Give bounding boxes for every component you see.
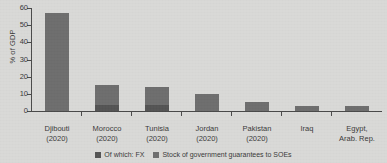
legend-label: Of which: FX: [104, 151, 144, 158]
x-label-year: (2020): [182, 134, 232, 144]
x-label-name: Djibouti: [32, 124, 82, 134]
x-label-name: Egypt,: [332, 124, 382, 134]
y-tick-30: 30: [31, 60, 36, 61]
legend-item-fx: Of which: FX: [95, 151, 144, 158]
x-tick: [131, 112, 132, 116]
x-label-year: (2020): [82, 134, 132, 144]
x-axis-line: [31, 111, 382, 112]
x-tick: [331, 112, 332, 116]
y-tick-label: 30: [20, 55, 28, 64]
bar-segment-stock: [195, 94, 219, 111]
bar-tunisia: [145, 8, 169, 111]
bar-segment-fx: [95, 105, 119, 111]
x-tick: [181, 112, 182, 116]
bar-segment-fx: [145, 105, 169, 111]
bar-egypt: [345, 8, 369, 111]
bar-pakistan: [245, 8, 269, 111]
x-label-name: Tunisia: [132, 124, 182, 134]
y-tick-20: 20: [31, 77, 36, 78]
bar-djibouti: [45, 8, 69, 111]
x-label-year: (2020): [132, 134, 182, 144]
x-label-year: (2020): [232, 134, 282, 144]
y-tick-label: 20: [20, 72, 28, 81]
legend-label: Stock of government guarantees to SOEs: [162, 151, 291, 158]
plot-area: 60 50 40 30 20 10 0: [31, 8, 382, 112]
x-label-name: Jordan: [182, 124, 232, 134]
y-tick-label: 10: [20, 89, 28, 98]
x-label-morocco: Morocco (2020): [82, 124, 132, 143]
x-label-name: Morocco: [82, 124, 132, 134]
y-tick-label: 60: [20, 3, 28, 12]
y-tick-10: 10: [31, 94, 36, 95]
x-label-name: Pakistan: [232, 124, 282, 134]
y-tick-label: 40: [20, 37, 28, 46]
x-tick: [231, 112, 232, 116]
legend-swatch-icon: [153, 152, 159, 158]
x-label-pakistan: Pakistan (2020): [232, 124, 282, 143]
y-tick-40: 40: [31, 42, 36, 43]
bar-segment-stock: [295, 106, 319, 111]
x-label-jordan: Jordan (2020): [182, 124, 232, 143]
bar-segment-stock: [45, 13, 69, 111]
bar-segment-stock: [345, 106, 369, 111]
x-label-egypt: Egypt, Arab. Rep.: [332, 124, 382, 143]
bar-segment-stock: [245, 102, 269, 111]
y-tick-label: 50: [20, 20, 28, 29]
chart-legend: Of which: FX Stock of government guarant…: [0, 151, 387, 158]
x-label-year: Arab. Rep.: [332, 134, 382, 144]
chart-figure: % of GDP 60 50 40 30 20 10: [0, 0, 387, 163]
y-tick-0: 0: [31, 111, 36, 112]
x-label-iraq: Iraq: [282, 124, 332, 134]
y-axis-title: % of GDP: [8, 17, 17, 77]
y-tick-60: 60: [31, 8, 36, 9]
y-tick-50: 50: [31, 25, 36, 26]
x-tick: [81, 112, 82, 116]
y-tick-label: 0: [24, 106, 28, 115]
x-label-djibouti: Djibouti (2020): [32, 124, 82, 143]
bar-iraq: [295, 8, 319, 111]
x-tick: [281, 112, 282, 116]
x-label-tunisia: Tunisia (2020): [132, 124, 182, 143]
legend-item-stock: Stock of government guarantees to SOEs: [153, 151, 291, 158]
legend-swatch-icon: [95, 152, 101, 158]
bar-jordan: [195, 8, 219, 111]
x-label-name: Iraq: [282, 124, 332, 134]
bar-morocco: [95, 8, 119, 111]
x-label-year: (2020): [32, 134, 82, 144]
